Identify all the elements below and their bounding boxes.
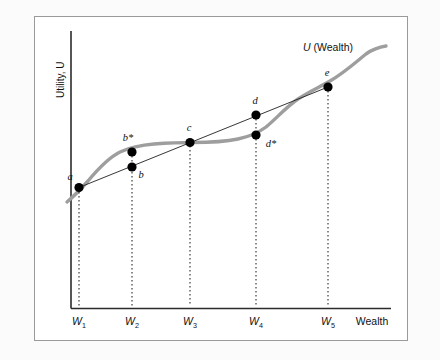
- data-point-d[interactable]: [251, 110, 260, 119]
- x-tick-w3-sub: 3: [193, 321, 197, 330]
- data-point-a[interactable]: [74, 183, 83, 192]
- x-tick-w1-sub: 1: [82, 321, 86, 330]
- point-labels-group: a b b* c d d* e: [67, 67, 329, 182]
- figure-root: Utility, U a: [0, 0, 440, 360]
- x-tick-labels-group: W1 W2 W3 W4 W5: [72, 315, 335, 330]
- curve-label-group: U (Wealth): [303, 41, 353, 53]
- drop-lines-group: [79, 87, 328, 306]
- x-axis-title-group: Wealth: [356, 315, 389, 327]
- utility-wealth-chart: Utility, U a: [0, 0, 440, 360]
- y-axis-title: Utility, U: [55, 62, 66, 98]
- point-label-c: c: [187, 122, 192, 133]
- data-point-c[interactable]: [185, 138, 194, 147]
- point-label-b: b: [138, 169, 143, 180]
- x-tick-label-w3: W3: [183, 315, 197, 330]
- data-point-d-star[interactable]: [251, 130, 260, 139]
- x-tick-label-w4: W4: [249, 315, 263, 330]
- utility-function-curve: [67, 46, 386, 202]
- x-tick-label-w5: W5: [321, 315, 335, 330]
- data-point-b-star[interactable]: [127, 147, 136, 156]
- point-label-a: a: [67, 171, 72, 182]
- point-label-d: d: [252, 95, 258, 106]
- data-point-e[interactable]: [323, 82, 332, 91]
- x-tick-w5-sub: 5: [331, 321, 335, 330]
- x-tick-label-w2: W2: [125, 315, 139, 330]
- chord-a-to-e: [79, 87, 328, 188]
- chord-line-group: [79, 87, 328, 188]
- curve-label-wealth: (Wealth): [311, 41, 353, 53]
- point-label-d-star: d*: [266, 138, 277, 149]
- x-axis-title: Wealth: [356, 315, 389, 327]
- data-point-b[interactable]: [127, 162, 136, 171]
- x-tick-w4-sub: 4: [259, 321, 263, 330]
- utility-curve-group: [67, 46, 386, 202]
- curve-label: U (Wealth): [303, 41, 353, 53]
- x-tick-w2-sub: 2: [135, 321, 139, 330]
- point-label-e: e: [325, 67, 330, 78]
- point-label-b-star: b*: [123, 132, 134, 143]
- y-axis-title-group: Utility, U: [55, 62, 66, 98]
- x-tick-label-w1: W1: [72, 315, 86, 330]
